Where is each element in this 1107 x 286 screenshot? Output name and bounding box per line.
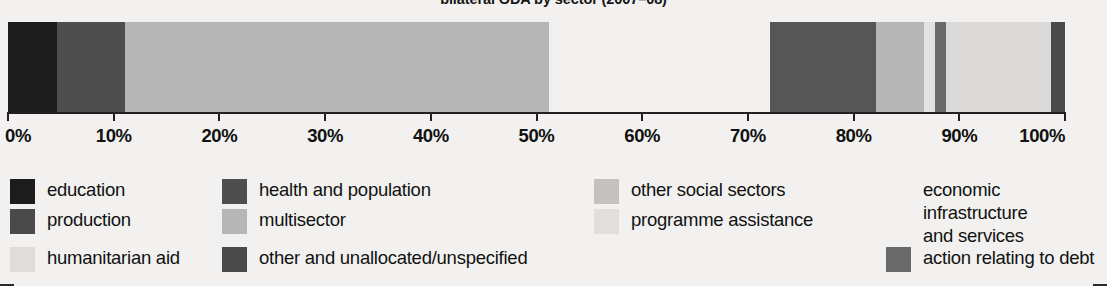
legend-item-label: multisector: [259, 208, 346, 231]
legend-item-label: other social sectors: [631, 178, 785, 201]
legend-swatch-icon: [886, 179, 911, 204]
chart-title: bilateral ODA by sector (2007–08): [0, 0, 1107, 7]
legend-item[interactable]: production: [10, 208, 131, 234]
x-axis-tick: [1064, 112, 1066, 121]
x-axis-tick-label: 80%: [836, 125, 872, 147]
x-axis-tick: [218, 112, 220, 121]
x-axis: 0%10%20%30%40%50%60%70%80%90%100%: [8, 112, 1065, 113]
legend-item-label: economic infrastructure and services: [923, 178, 1107, 247]
bar-segment: [876, 22, 925, 112]
bar-segment: [770, 22, 876, 112]
legend-swatch-icon: [222, 179, 247, 204]
x-axis-tick-label: 20%: [201, 125, 237, 147]
legend-item-label: humanitarian aid: [47, 246, 180, 269]
x-axis-tick: [7, 112, 9, 121]
chart-root: bilateral ODA by sector (2007–08) 0%10%2…: [0, 0, 1107, 286]
x-axis-tick-label: 60%: [624, 125, 660, 147]
x-axis-tick: [958, 112, 960, 121]
x-axis-tick-label: 30%: [307, 125, 343, 147]
legend-swatch-icon: [222, 247, 247, 272]
bar-segment: [57, 22, 126, 112]
legend-item[interactable]: action relating to debt: [886, 246, 1094, 272]
legend-swatch-icon: [594, 209, 619, 234]
legend-swatch-icon: [10, 179, 35, 204]
x-axis-tick: [536, 112, 538, 121]
x-axis-tick-label: 40%: [413, 125, 449, 147]
legend-item-label: action relating to debt: [923, 246, 1094, 269]
legend-item[interactable]: other and unallocated/unspecified: [222, 246, 527, 272]
legend-item[interactable]: health and population: [222, 178, 431, 204]
legend-item[interactable]: programme assistance: [594, 208, 813, 234]
legend-swatch-icon: [10, 247, 35, 272]
bar-segment: [935, 22, 946, 112]
legend-swatch-icon: [10, 209, 35, 234]
bar-segment: [8, 22, 57, 112]
x-axis-tick-label: 0%: [5, 125, 31, 147]
x-axis-tick: [641, 112, 643, 121]
x-axis-tick: [430, 112, 432, 121]
chart-legend: educationproductionhumanitarian aidhealt…: [0, 160, 1107, 286]
legend-item[interactable]: humanitarian aid: [10, 246, 180, 272]
bar-segment: [1051, 22, 1065, 112]
legend-swatch-icon: [594, 179, 619, 204]
bar-segment: [549, 22, 770, 112]
x-axis-tick: [324, 112, 326, 121]
legend-item[interactable]: education: [10, 178, 125, 204]
stacked-bar-track: [8, 22, 1065, 112]
x-axis-tick: [853, 112, 855, 121]
legend-item-label: production: [47, 208, 131, 231]
legend-item[interactable]: multisector: [222, 208, 346, 234]
legend-swatch-icon: [222, 209, 247, 234]
x-axis-tick: [747, 112, 749, 121]
legend-item-label: education: [47, 178, 125, 201]
legend-swatch-icon: [886, 247, 911, 272]
x-axis-tick-label: 90%: [941, 125, 977, 147]
bar-segment: [924, 22, 935, 112]
legend-item[interactable]: other social sectors: [594, 178, 785, 204]
legend-item-label: other and unallocated/unspecified: [259, 246, 527, 269]
x-axis-tick-label: 10%: [96, 125, 132, 147]
bar-segment: [125, 22, 549, 112]
legend-item-label: health and population: [259, 178, 431, 201]
x-axis-tick-label: 50%: [519, 125, 555, 147]
bar-segment: [946, 22, 1052, 112]
stacked-bar: [8, 22, 1065, 112]
x-axis-tick: [113, 112, 115, 121]
x-axis-tick-label: 70%: [730, 125, 766, 147]
legend-item-label: programme assistance: [631, 208, 813, 231]
legend-item[interactable]: economic infrastructure and services: [886, 178, 1107, 247]
x-axis-tick-label: 100%: [1019, 125, 1065, 147]
